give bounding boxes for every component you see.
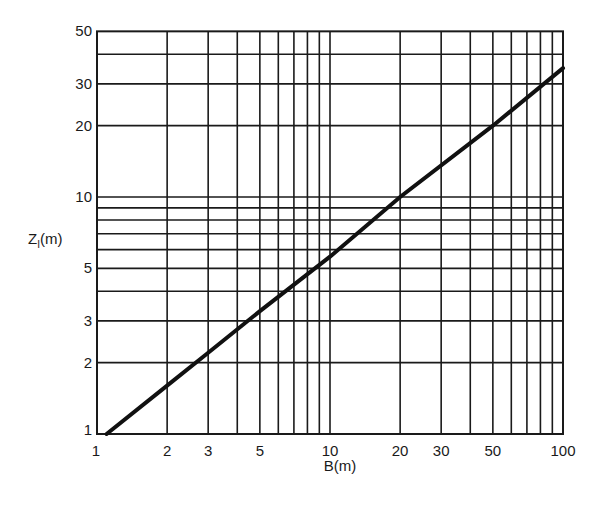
x-tick-label: 30	[433, 442, 450, 459]
y-tick-label: 30	[75, 75, 92, 92]
x-tick-label: 1	[92, 442, 100, 459]
x-tick-label: 3	[204, 442, 212, 459]
y-tick-label: 10	[75, 188, 92, 205]
y-tick-label: 5	[84, 259, 92, 276]
x-tick-label: 2	[163, 442, 171, 459]
log-log-chart: 123510203050100 123510203050 B(m) ZI(m)	[0, 0, 599, 509]
x-tick-label: 100	[550, 442, 575, 459]
y-axis-label-unit: (m)	[40, 230, 63, 247]
y-tick-label: 3	[84, 312, 92, 329]
x-tick-label: 50	[485, 442, 502, 459]
x-tick-label: 20	[392, 442, 409, 459]
y-tick-label: 1	[84, 421, 92, 438]
y-axis-label-main: Z	[28, 230, 37, 247]
y-tick-label: 50	[75, 22, 92, 39]
grid-lines	[97, 31, 563, 434]
y-axis-label: ZI(m)	[28, 230, 62, 250]
x-axis-label: B(m)	[324, 457, 357, 474]
y-tick-label: 2	[84, 354, 92, 371]
data-line	[107, 68, 563, 434]
y-tick-labels: 123510203050	[75, 22, 92, 438]
y-tick-label: 20	[75, 117, 92, 134]
x-tick-label: 5	[256, 442, 264, 459]
